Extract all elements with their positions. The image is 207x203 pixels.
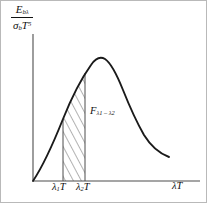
x-tick-label-lambda2: λ2T — [76, 182, 90, 193]
x-tick-label-lambda1: λ1T — [52, 182, 66, 193]
band-fraction-region — [63, 69, 86, 182]
blackbody-emissive-power-figure: Ebλ σbT5 λ1T λ2T λT Fλ1 – λ2 — [0, 0, 207, 203]
band-fraction-annotation: Fλ1 – λ2 — [90, 106, 115, 117]
spectral-distribution-curve — [33, 58, 169, 181]
x-axis-label: λT — [172, 181, 182, 192]
fraction-bar — [11, 17, 33, 18]
y-axis-label-denominator: σbT5 — [11, 19, 33, 32]
y-axis-label-numerator: Ebλ — [11, 4, 33, 17]
y-axis-label: Ebλ σbT5 — [11, 4, 33, 32]
